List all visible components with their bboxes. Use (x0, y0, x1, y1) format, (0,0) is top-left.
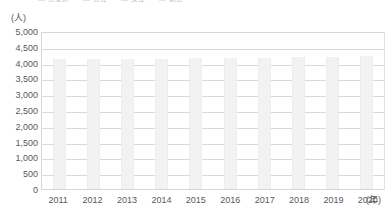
x-axis-tick-label: 2016 (213, 193, 247, 207)
legend-swatch-icon (83, 0, 90, 1)
y-axis-tick-label: 4,500 (15, 43, 38, 52)
x-axis-tick-label: 2019 (316, 193, 350, 207)
legend-item-label: 割合 (169, 0, 183, 2)
y-axis-tick-label: 0 (33, 186, 38, 195)
y-axis-tick-label: 3,500 (15, 75, 38, 84)
x-axis-tick-label: 2013 (110, 193, 144, 207)
y-axis-tick-label: 2,500 (15, 107, 38, 116)
bar-slot (247, 33, 281, 189)
bar[interactable] (53, 59, 66, 189)
x-axis-tick-label: 2017 (247, 193, 281, 207)
y-axis-tick-label: 5,000 (15, 28, 38, 37)
legend-item: 男性 (83, 0, 107, 2)
bar-slot (42, 33, 76, 189)
bar-chart: 男女計 男性 女性 割合 (人) 5,0004,5004,0003,5003,0… (0, 0, 392, 211)
legend-item: 割合 (159, 0, 183, 2)
legend-item-label: 男性 (93, 0, 107, 2)
y-axis-tick-label: 2,000 (15, 122, 38, 131)
x-axis-tick-label: 2011 (41, 193, 75, 207)
chart-legend: 男女計 男性 女性 割合 (38, 0, 388, 2)
x-axis-tick-label: 2012 (75, 193, 109, 207)
y-axis-tick-label: 3,000 (15, 91, 38, 100)
bar[interactable] (224, 58, 237, 189)
bar-slot (350, 33, 384, 189)
legend-swatch-icon (121, 0, 128, 1)
legend-item: 女性 (121, 0, 145, 2)
y-axis-tick-label: 500 (23, 170, 38, 179)
legend-swatch-icon (159, 0, 166, 1)
bar-slot (213, 33, 247, 189)
bar[interactable] (155, 59, 168, 190)
legend-item-label: 女性 (131, 0, 145, 2)
bar[interactable] (121, 59, 134, 189)
y-axis-unit-label: (人) (11, 11, 26, 24)
bar[interactable] (189, 58, 202, 189)
y-axis-tick-labels: 5,0004,5004,0003,5003,0002,5002,0001,500… (0, 32, 38, 190)
x-axis-tick-label: 2014 (144, 193, 178, 207)
bar[interactable] (258, 58, 271, 189)
x-axis-tick-label: 2015 (179, 193, 213, 207)
bar-slot (145, 33, 179, 189)
plot-area (41, 32, 385, 190)
legend-swatch-icon (38, 0, 45, 1)
bar[interactable] (326, 57, 339, 189)
bar-slot (179, 33, 213, 189)
bar[interactable] (87, 59, 100, 189)
bar-slot (316, 33, 350, 189)
bar[interactable] (292, 57, 305, 189)
x-axis-tick-labels: 2011201220132014201520162017201820192020 (41, 193, 385, 207)
x-axis-tick-label: 2018 (282, 193, 316, 207)
x-axis-unit-label: (年) (366, 193, 381, 207)
y-axis-tick-label: 1,000 (15, 154, 38, 163)
y-axis-tick-label: 1,500 (15, 138, 38, 147)
legend-item: 男女計 (38, 0, 69, 2)
y-axis-tick-label: 4,000 (15, 59, 38, 68)
legend-item-label: 男女計 (48, 0, 69, 2)
bar-slot (110, 33, 144, 189)
bar-series (42, 33, 384, 189)
bar[interactable] (360, 56, 373, 189)
bar-slot (76, 33, 110, 189)
bar-slot (281, 33, 315, 189)
